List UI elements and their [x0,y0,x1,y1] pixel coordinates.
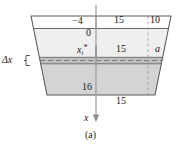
x-axis-arrowhead [93,115,99,123]
label-delta-x: Δx [2,55,12,65]
label-top-inner-left: −4 [72,16,83,26]
label-top-right-depth: 10 [150,15,160,25]
tank-region-strip [0,57,187,64]
label-depth-a: a [155,44,160,54]
label-mid-width: 15 [116,44,126,54]
label-sample-point: xi* [77,44,87,57]
tank-region-lower [0,64,187,104]
sample-point-star: * [83,43,87,52]
label-surface-zero: 0 [86,28,91,38]
label-bottom-width: 15 [116,96,126,106]
figure-caption: (a) [85,130,96,140]
label-bottom-inner: 16 [82,82,92,92]
figure-container: −4 15 10 0 xi* 15 a Δx 16 15 x (a) [0,0,187,145]
label-top-width: 15 [114,15,124,25]
delta-x-bracket [24,56,30,66]
label-x-axis: x [84,113,88,123]
